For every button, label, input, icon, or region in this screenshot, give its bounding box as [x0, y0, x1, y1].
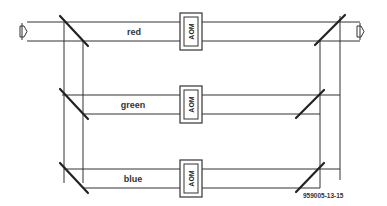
green-label: green — [121, 100, 146, 110]
optical-diagram: AOM AOM AOM red green blue 959005-13-15 — [0, 0, 387, 206]
figure-id: 959005-13-15 — [303, 192, 344, 199]
aom-green: AOM — [180, 86, 202, 123]
aom-green-label: AOM — [188, 96, 195, 113]
output-arrow-icon — [357, 23, 364, 40]
red-label: red — [127, 27, 141, 37]
aom-blue: AOM — [180, 160, 202, 197]
aom-red-label: AOM — [188, 23, 195, 40]
aom-red: AOM — [180, 13, 202, 50]
blue-label: blue — [124, 174, 143, 184]
aom-blue-label: AOM — [188, 170, 195, 187]
input-arrow-icon — [20, 23, 27, 40]
